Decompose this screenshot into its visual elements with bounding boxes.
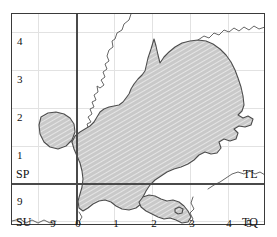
x-tick-label-1: 1 (113, 218, 119, 229)
grid-square-code-tl: TL (243, 168, 258, 180)
x-tick-label-9-left: 9 (50, 218, 56, 229)
map-artwork (12, 14, 265, 225)
x-tick-label-0: 0 (75, 218, 81, 229)
y-tick-label-9-lower: 9 (17, 196, 23, 207)
y-tick-label-2: 2 (17, 112, 23, 123)
y-tick-label-1: 1 (17, 150, 23, 161)
region-detached-west (39, 112, 75, 149)
map-plot-frame (11, 13, 265, 225)
y-tick-label-3: 3 (17, 74, 23, 85)
boundary-north-east (198, 26, 265, 40)
major-gridline-easting-origin (76, 14, 78, 224)
major-gridline-northing-origin (12, 183, 264, 185)
grid-square-code-su: SU (16, 216, 31, 228)
hatched-study-area (72, 39, 253, 211)
x-tick-label-4: 4 (226, 218, 232, 229)
grid-reference-map: 4 3 2 1 9 9 0 1 2 3 4 5 SP TL SU TQ (0, 0, 277, 237)
x-tick-label-2: 2 (151, 218, 157, 229)
y-tick-label-4: 4 (17, 36, 23, 47)
grid-square-code-tq: TQ (242, 216, 258, 228)
grid-square-code-sp: SP (16, 168, 29, 180)
x-tick-label-3: 3 (189, 218, 195, 229)
region-inner-island (175, 207, 183, 214)
